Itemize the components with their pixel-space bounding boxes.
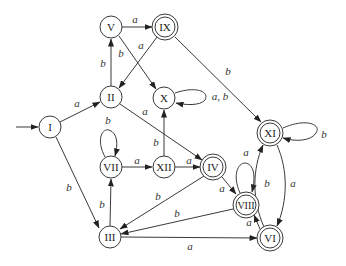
edge-XI-XI: [283, 123, 317, 140]
state-label-III: III: [105, 231, 116, 243]
edge-VIII-VIII: [236, 163, 254, 193]
edge-label-XI-XI: b: [321, 128, 327, 140]
edge-label-III-VI: a: [187, 240, 193, 252]
edge-VI-XI: [255, 145, 264, 227]
state-IV: IV: [200, 154, 226, 180]
state-label-IX: IX: [159, 21, 171, 33]
edge-label-IV-VIII: a: [219, 182, 225, 194]
state-label-X: X: [160, 92, 168, 104]
edge-I-III: [56, 137, 99, 228]
edge-label-VIII-VIII: a: [243, 146, 249, 158]
edge-label-I-III: b: [66, 181, 72, 193]
state-label-VI: VI: [264, 232, 276, 244]
edge-XI-VI: [277, 145, 285, 226]
state-label-I: I: [48, 121, 52, 133]
edge-label-IX-XI: b: [225, 65, 231, 77]
edge-I-II: [60, 102, 100, 122]
state-label-VII: VII: [103, 161, 119, 173]
edge-label-II-IV: a: [142, 105, 148, 117]
edge-label-VI-XI: b: [264, 177, 270, 189]
edge-II-IV: [120, 104, 202, 160]
edge-X-X: [175, 90, 206, 105]
state-XII: XII: [153, 156, 175, 178]
state-label-XII: XII: [156, 161, 172, 173]
edge-VII-VII: [100, 130, 116, 157]
state-VIII: VIII: [233, 192, 259, 218]
state-VII: VII: [100, 156, 122, 178]
edge-label-III-VII: b: [99, 198, 105, 210]
edge-IX-XI: [175, 37, 261, 122]
edge-III-VII: [110, 179, 111, 226]
state-X: X: [153, 87, 175, 109]
edge-IV-III: [120, 176, 204, 229]
state-label-XI: XI: [264, 127, 276, 139]
state-IX: IX: [152, 14, 178, 40]
edge-label-X-X: a, b: [212, 90, 229, 102]
edge-label-V-IX: a: [132, 13, 138, 25]
edge-label-XII-IV: a: [186, 154, 192, 166]
state-III: III: [99, 226, 121, 248]
state-V: V: [100, 16, 122, 38]
edge-label-IX-II: a: [138, 39, 144, 51]
state-label-VIII: VIII: [237, 200, 254, 211]
edge-label-I-II: a: [74, 97, 80, 109]
state-II: II: [100, 86, 122, 108]
edge-VI-VIII: [254, 215, 260, 229]
edge-label-II-V: b: [100, 57, 106, 69]
edge-label-XII-X: b: [153, 136, 159, 148]
edge-label-VII-XII: a: [134, 154, 140, 166]
state-label-V: V: [107, 21, 115, 33]
diagram-svg: a b b a a b a b a, b b a b a b a b a a b…: [0, 0, 346, 266]
state-XI: XI: [257, 120, 283, 146]
edge-III-VI: [121, 237, 257, 238]
state-label-II: II: [107, 91, 115, 103]
state-I: I: [39, 116, 61, 138]
edge-label-IV-III: b: [155, 190, 161, 202]
edge-label-VIII-III: b: [174, 207, 180, 219]
state-label-IV: IV: [207, 161, 219, 173]
edge-label-XI-VI: a: [290, 177, 296, 189]
edge-label-V-X: b: [118, 47, 124, 59]
automaton-diagram: a b b a a b a b a, b b a b a b a b a a b…: [0, 0, 346, 266]
edge-label-VII-VII: b: [105, 114, 111, 126]
state-VI: VI: [257, 225, 283, 251]
